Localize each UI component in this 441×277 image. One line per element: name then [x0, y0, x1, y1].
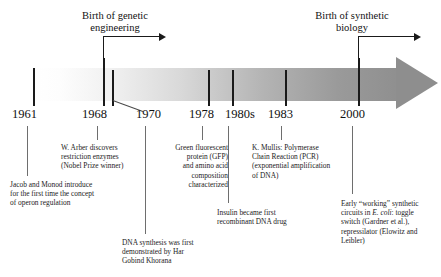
- year-label-1980s: 1980s: [225, 107, 255, 121]
- timeline-band: [30, 68, 405, 101]
- header-label-synthetic-biology: Birth of synthetic biology: [288, 10, 416, 34]
- tick-1983: [285, 70, 287, 106]
- year-label-1978: 1978: [189, 107, 214, 121]
- year-label-2000: 2000: [340, 107, 365, 121]
- synthetic-circuits-line5: Leibler): [341, 236, 365, 245]
- synthetic-circuits-organism: E. coli: [372, 208, 391, 217]
- year-label-1961: 1961: [12, 107, 37, 121]
- synthetic-circuits-line4: repressilator (Elowitz and: [341, 227, 417, 236]
- event-caption-operon: Jacob and Monod introduce for the first …: [10, 180, 122, 208]
- header-connector-arm-synthetic-biology: [358, 36, 415, 37]
- synthetic-circuits-line2a: circuits in: [341, 208, 372, 217]
- leader-1961: [27, 126, 28, 176]
- header-connector-arrowhead-genetic-engineering: [159, 33, 166, 41]
- event-caption-restriction-enzymes: W. Arber discovers restriction enzymes (…: [61, 143, 149, 171]
- timeline-figure: Birth of genetic engineering Birth of sy…: [0, 0, 441, 277]
- event-caption-synthetic-circuits: Early “working” syntheticcircuits in E. …: [341, 199, 437, 245]
- leader-1968: [97, 126, 98, 140]
- year-label-1983: 1983: [268, 107, 293, 121]
- tick-1980s: [232, 70, 234, 106]
- year-label-1968: 1968: [82, 107, 107, 121]
- event-caption-gfp: Green fluorescent protein (GFP) and amin…: [155, 143, 228, 189]
- leader-2000: [352, 126, 353, 194]
- timeline-arrowhead-icon: [396, 57, 438, 109]
- tick-2000: [358, 58, 360, 106]
- event-caption-pcr: K. Mullis: Polymerase Chain Reaction (PC…: [252, 143, 346, 180]
- synthetic-circuits-line2b: : toggle: [392, 208, 414, 217]
- tick-1968: [103, 58, 105, 106]
- leader-1983: [281, 126, 282, 140]
- header-connector-arrowhead-synthetic-biology: [414, 33, 421, 41]
- year-label-1970: 1970: [136, 107, 161, 121]
- event-caption-insulin: Insulin became first recombinant DNA dru…: [217, 208, 309, 226]
- leader-1978: [202, 126, 203, 140]
- synthetic-circuits-line3: switch (Gardner et al.),: [341, 217, 409, 226]
- tick-1978: [208, 70, 210, 106]
- header-label-genetic-engineering: Birth of genetic engineering: [56, 10, 174, 34]
- event-caption-dna-synthesis: DNA synthesis was first demonstrated by …: [122, 238, 222, 266]
- leader-1980s: [228, 126, 229, 203]
- tick-1961: [33, 68, 35, 106]
- synthetic-circuits-line1: Early “working” synthetic: [341, 199, 419, 208]
- header-connector-arm-genetic-engineering: [103, 36, 160, 37]
